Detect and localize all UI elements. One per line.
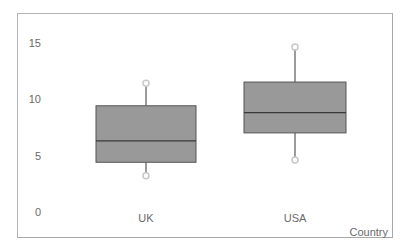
y-tick-label: 10	[29, 93, 41, 105]
box-plot-chart: 151050 UKUSA Country	[0, 0, 410, 250]
box-usa	[244, 44, 346, 163]
y-tick-label: 15	[29, 37, 41, 49]
x-category-label: UK	[138, 212, 154, 224]
x-axis-label: Country	[349, 226, 388, 238]
boxes	[96, 44, 346, 179]
x-axis-categories: UKUSA	[138, 212, 307, 224]
upper-whisker-marker	[143, 80, 149, 86]
iqr-box	[96, 106, 196, 163]
lower-whisker-marker	[292, 157, 298, 163]
y-axis-ticks: 151050	[29, 37, 41, 219]
upper-whisker-marker	[292, 44, 298, 50]
iqr-box	[244, 82, 346, 133]
y-tick-label: 0	[35, 206, 41, 218]
box-uk	[96, 80, 196, 179]
y-tick-label: 5	[35, 150, 41, 162]
x-category-label: USA	[284, 212, 307, 224]
lower-whisker-marker	[143, 173, 149, 179]
